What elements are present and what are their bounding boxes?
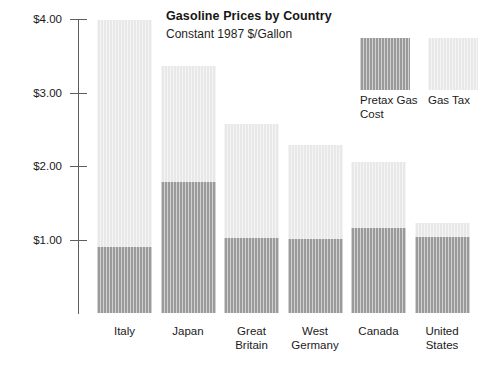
legend-label-pretax-gas-cost: Pretax GasCost [360, 93, 434, 121]
legend-label-line: Cost [360, 107, 434, 121]
bar-segment-gas-tax [351, 162, 406, 228]
x-axis-category-label: UnitedStates [405, 324, 480, 352]
bar-segment-pretax-cost [288, 239, 343, 313]
bar-group [161, 66, 216, 313]
bar-segment-pretax-cost [161, 182, 216, 313]
bar-segment-pretax-cost [224, 238, 279, 313]
bar-group [415, 223, 470, 313]
bar-segment-pretax-cost [97, 247, 152, 313]
x-axis-label-line: United [405, 324, 480, 338]
bar-group [351, 162, 406, 313]
bar-group [288, 145, 343, 313]
bar-segment-pretax-cost [415, 237, 470, 313]
legend-label-line: Pretax Gas [360, 93, 434, 107]
bar-segment-gas-tax [415, 223, 470, 237]
legend-swatch-gas-tax [428, 38, 478, 90]
bar-segment-pretax-cost [351, 228, 406, 313]
legend-label-gas-tax: Gas Tax [428, 93, 494, 107]
bar-segment-gas-tax [97, 20, 152, 247]
bar-segment-gas-tax [288, 145, 343, 240]
bar-group [97, 20, 152, 313]
bar-segment-gas-tax [161, 66, 216, 182]
bar-group [224, 124, 279, 313]
bar-segment-gas-tax [224, 124, 279, 238]
gasoline-prices-chart: Gasoline Prices by Country Constant 1987… [0, 0, 494, 367]
plot-area: ItalyJapanGreatBritainWestGermanyCanadaU… [0, 0, 494, 367]
legend-swatch-pretax-gas-cost [360, 38, 410, 90]
legend-label-line: Gas Tax [428, 93, 494, 107]
x-axis-label-line: Germany [278, 338, 353, 352]
x-axis-label-line: States [405, 338, 480, 352]
